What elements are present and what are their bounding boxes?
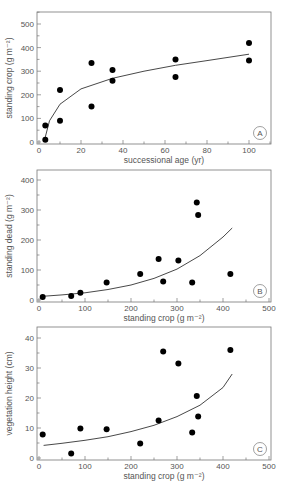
data-point bbox=[194, 200, 200, 206]
data-point bbox=[194, 393, 200, 399]
x-tick-label: 80 bbox=[203, 146, 212, 155]
y-tick-label: 500 bbox=[21, 20, 35, 29]
x-tick-label: 40 bbox=[119, 146, 128, 155]
x-tick-label: 400 bbox=[216, 462, 230, 471]
x-tick-label: 100 bbox=[78, 304, 92, 313]
data-point bbox=[42, 137, 48, 143]
data-point bbox=[137, 271, 143, 277]
y-tick-label: 40 bbox=[25, 334, 34, 343]
data-point bbox=[40, 432, 46, 438]
panel-c-chart: 0100200300400500010203040standing crop (… bbox=[4, 327, 276, 481]
x-tick-label: 0 bbox=[37, 146, 42, 155]
x-tick-label: 300 bbox=[170, 304, 184, 313]
y-tick-label: 300 bbox=[21, 206, 35, 215]
data-point bbox=[175, 257, 181, 263]
y-tick-label: 300 bbox=[21, 67, 35, 76]
data-point bbox=[40, 294, 46, 300]
data-point bbox=[77, 426, 83, 432]
data-point bbox=[160, 349, 166, 355]
x-axis-label: standing crop (g m⁻²) bbox=[123, 471, 204, 481]
panel-badge-label: C bbox=[257, 445, 263, 454]
x-tick-label: 0 bbox=[37, 462, 42, 471]
x-tick-label: 100 bbox=[78, 462, 92, 471]
y-tick-label: 0 bbox=[30, 296, 35, 305]
y-tick-label: 30 bbox=[25, 364, 34, 373]
x-tick-label: 500 bbox=[262, 304, 276, 313]
y-tick-label: 200 bbox=[21, 91, 35, 100]
data-point bbox=[77, 290, 83, 296]
panel-badge-label: B bbox=[257, 287, 262, 296]
y-tick-label: 20 bbox=[25, 394, 34, 403]
data-point bbox=[89, 60, 95, 66]
x-tick-label: 200 bbox=[124, 304, 138, 313]
data-point bbox=[110, 67, 116, 73]
data-point bbox=[246, 58, 252, 64]
data-point bbox=[137, 441, 143, 447]
data-point bbox=[160, 278, 166, 284]
x-tick-label: 500 bbox=[262, 462, 276, 471]
y-tick-label: 0 bbox=[30, 454, 35, 463]
y-axis-label: standing dead (g m⁻²) bbox=[4, 194, 14, 278]
data-point bbox=[189, 430, 195, 436]
x-tick-label: 300 bbox=[170, 462, 184, 471]
fit-curve bbox=[44, 374, 233, 445]
data-point bbox=[42, 122, 48, 128]
data-point bbox=[195, 212, 201, 218]
panel-b-chart: 01002003004005000100200300400standing cr… bbox=[4, 170, 276, 323]
y-tick-label: 0 bbox=[30, 138, 35, 147]
data-point bbox=[195, 414, 201, 420]
data-point bbox=[173, 74, 179, 80]
data-point bbox=[227, 347, 233, 353]
data-point bbox=[173, 56, 179, 62]
y-axis-label: vegetation height (cm) bbox=[4, 351, 14, 435]
data-point bbox=[104, 280, 110, 286]
fit-curve bbox=[44, 54, 249, 141]
x-axis-label: successional age (yr) bbox=[124, 155, 204, 165]
fit-curve bbox=[41, 228, 232, 296]
x-tick-label: 20 bbox=[77, 146, 86, 155]
data-point bbox=[156, 418, 162, 424]
x-tick-label: 400 bbox=[216, 304, 230, 313]
data-point bbox=[110, 78, 116, 84]
plot-frame bbox=[37, 170, 271, 302]
data-point bbox=[189, 280, 195, 286]
data-point bbox=[246, 40, 252, 46]
data-point bbox=[227, 271, 233, 277]
panel-a-chart: 0204060801000100200300400500successional… bbox=[4, 12, 271, 165]
panel-badge-label: A bbox=[257, 129, 263, 138]
y-axis-label: standing crop (g m⁻²) bbox=[4, 37, 14, 118]
data-point bbox=[68, 293, 74, 299]
y-tick-label: 100 bbox=[21, 114, 35, 123]
data-point bbox=[175, 361, 181, 367]
x-tick-label: 60 bbox=[161, 146, 170, 155]
plot-frame bbox=[37, 12, 271, 144]
data-point bbox=[68, 451, 74, 457]
data-point bbox=[57, 87, 63, 93]
figure: 0204060801000100200300400500successional… bbox=[0, 0, 288, 484]
x-axis-label: standing crop (g m⁻²) bbox=[123, 313, 204, 323]
y-tick-label: 400 bbox=[21, 44, 35, 53]
data-point bbox=[89, 104, 95, 110]
plot-frame bbox=[37, 327, 271, 460]
data-point bbox=[57, 118, 63, 124]
data-point bbox=[104, 426, 110, 432]
data-point bbox=[156, 256, 162, 262]
x-tick-label: 200 bbox=[124, 462, 138, 471]
x-tick-label: 0 bbox=[37, 304, 42, 313]
y-tick-label: 200 bbox=[21, 236, 35, 245]
x-tick-label: 100 bbox=[242, 146, 256, 155]
y-tick-label: 10 bbox=[25, 424, 34, 433]
y-tick-label: 100 bbox=[21, 266, 35, 275]
y-tick-label: 400 bbox=[21, 176, 35, 185]
